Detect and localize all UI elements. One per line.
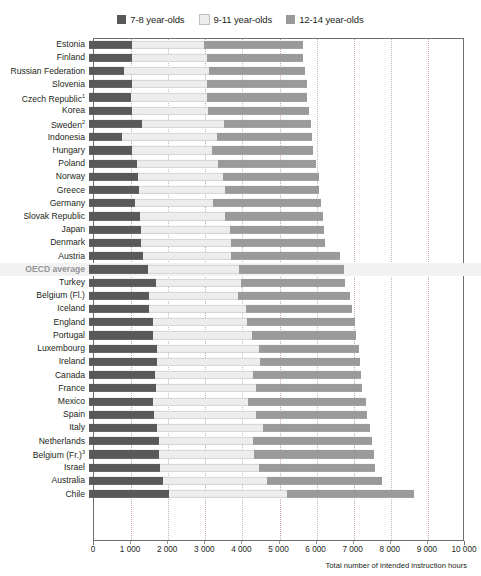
x-axis-labels: 01 0002 0003 0004 0005 0006 0007 0008 00… [0,545,481,559]
stacked-bar[interactable] [89,477,382,485]
stacked-bar[interactable] [89,292,350,300]
axis-tick-label: 0 [91,545,96,554]
axis-tick-label: 1 000 [120,545,141,554]
stacked-bar[interactable] [89,278,345,286]
bar-segment-9-11-year-olds [157,424,262,432]
row-label: Iceland [0,304,89,313]
row-label: Austria [0,252,89,261]
stacked-bar[interactable] [89,226,324,234]
bar-segment-7-8-year-olds [89,371,155,379]
bar-track [89,382,481,395]
stacked-bar[interactable] [89,345,359,353]
stacked-bar[interactable] [89,41,303,49]
table-row: Indonesia [0,131,481,144]
row-label-text: Belgium (Fl.) [36,290,85,300]
stacked-bar[interactable] [89,384,362,392]
bar-segment-12-14-year-olds [204,41,303,49]
stacked-bar[interactable] [89,305,352,313]
row-label-text: Canada [55,370,85,380]
table-row: Estonia [0,38,481,51]
row-label-text: Russian Federation [10,66,85,76]
table-row: Finland [0,51,481,64]
stacked-bar[interactable] [89,133,312,141]
row-label-text: Spain [63,409,85,419]
bar-segment-9-11-year-olds [122,133,218,141]
stacked-bar[interactable] [89,199,321,207]
legend-item[interactable]: 12-14 year-olds [286,14,364,25]
stacked-bar[interactable] [89,331,356,339]
row-label-text: Slovenia [52,79,85,89]
legend-label: 7-8 year-olds [130,14,184,25]
row-label: OECD average [0,265,89,274]
row-label-text: Australia [52,475,85,485]
bar-segment-9-11-year-olds [140,212,225,220]
legend-item[interactable]: 9-11 year-olds [199,14,273,25]
bar-segment-7-8-year-olds [89,490,169,498]
table-row: Greece [0,183,481,196]
row-label-text: Luxembourg [37,343,85,353]
bar-segment-12-14-year-olds [252,331,356,339]
row-label-text: Estonia [56,39,85,49]
bar-segment-7-8-year-olds [89,464,160,472]
stacked-bar[interactable] [89,358,360,366]
row-label-text: Belgium (Fr.) [33,450,82,460]
stacked-bar[interactable] [89,186,319,194]
row-label: Canada [0,371,89,380]
bar-segment-12-14-year-olds [267,477,382,485]
axis-tick [316,541,317,544]
stacked-bar[interactable] [89,371,361,379]
stacked-bar[interactable] [89,212,323,220]
row-label-text: Turkey [59,277,85,287]
bar-segment-9-11-year-olds [141,239,231,247]
axis-tick-label: 4 000 [231,545,252,554]
bar-track [89,223,481,236]
row-label-text: Netherlands [39,436,85,446]
stacked-bar[interactable] [89,239,325,247]
table-row: England [0,316,481,329]
bar-track [89,117,481,130]
stacked-bar[interactable] [89,252,340,260]
bar-track [89,421,481,434]
bar-track [89,329,481,342]
stacked-bar[interactable] [89,265,344,273]
row-label-text: Korea [62,105,85,115]
stacked-bar[interactable] [89,450,374,458]
bar-segment-9-11-year-olds [157,358,260,366]
row-label: Hungary [0,146,89,155]
stacked-bar[interactable] [89,411,367,419]
bar-segment-7-8-year-olds [89,397,153,405]
stacked-bar[interactable] [89,464,375,472]
row-label: Indonesia [0,133,89,142]
row-label: Mexico [0,397,89,406]
bar-track [89,276,481,289]
row-label: Norway [0,172,89,181]
row-label-text: Finland [57,52,85,62]
row-label-text: Italy [69,422,85,432]
bar-track [89,131,481,144]
stacked-bar[interactable] [89,437,372,445]
bar-segment-9-11-year-olds [159,437,253,445]
bar-segment-12-14-year-olds [223,173,318,181]
bar-segment-7-8-year-olds [89,107,132,115]
legend-item[interactable]: 7-8 year-olds [117,14,184,25]
stacked-bar[interactable] [89,490,414,498]
stacked-bar[interactable] [89,107,309,115]
stacked-bar[interactable] [89,173,319,181]
stacked-bar[interactable] [89,146,313,154]
row-label-text: Mexico [58,396,85,406]
stacked-bar[interactable] [89,54,303,62]
bar-segment-9-11-year-olds [169,490,287,498]
stacked-bar[interactable] [89,93,307,101]
stacked-bar[interactable] [89,80,307,88]
bar-segment-9-11-year-olds [160,464,259,472]
stacked-bar[interactable] [89,120,311,128]
bar-segment-7-8-year-olds [89,252,143,260]
axis-tick [241,541,242,544]
row-label-text: Japan [62,224,85,234]
stacked-bar[interactable] [89,159,316,167]
bar-segment-12-14-year-olds [231,252,339,260]
stacked-bar[interactable] [89,424,370,432]
stacked-bar[interactable] [89,318,355,326]
stacked-bar[interactable] [89,67,305,75]
stacked-bar[interactable] [89,397,366,405]
